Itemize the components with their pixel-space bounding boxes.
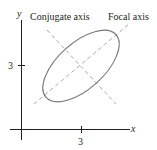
y-axis-label: y — [16, 8, 22, 19]
ellipse-diagram: y x 3 3 Conjugate axis Focal axis — [0, 0, 157, 150]
conjugate-axis-line — [47, 30, 116, 104]
x-tick-label: 3 — [78, 136, 83, 147]
focal-axis-label: Focal axis — [108, 11, 149, 22]
y-tick-label: 3 — [8, 60, 13, 71]
conjugate-axis-label: Conjugate axis — [30, 11, 90, 22]
focal-axis-line — [34, 24, 129, 104]
x-axis-label: x — [130, 123, 136, 134]
